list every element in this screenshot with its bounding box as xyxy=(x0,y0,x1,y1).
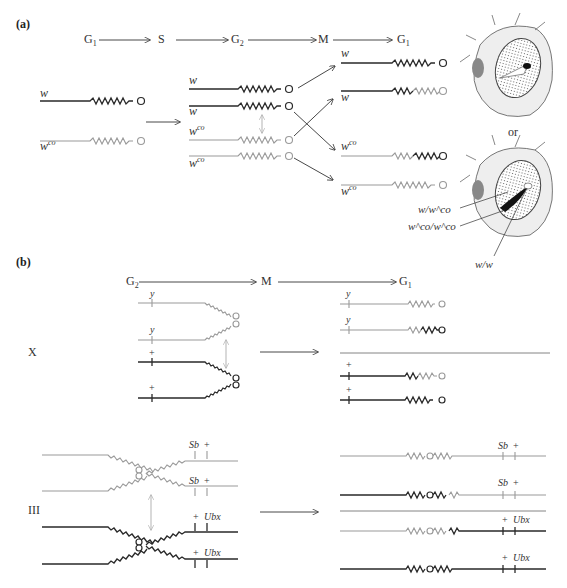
centromere xyxy=(286,103,293,110)
allele-wco: wco xyxy=(189,123,205,138)
marker-plus: + xyxy=(502,514,508,525)
g2-chromatids: w w wco wco xyxy=(189,73,293,170)
marker-plus: + xyxy=(193,511,199,522)
x-chromosome-g1: y y + + xyxy=(340,288,550,404)
marker-ubx: Ubx xyxy=(513,514,530,525)
allele-wco: wco xyxy=(189,155,205,170)
chromatid xyxy=(146,532,238,545)
allele-wco: wco xyxy=(40,138,56,153)
marker-plus: + xyxy=(204,475,210,486)
centromere xyxy=(439,301,445,307)
stage-m: M xyxy=(318,32,329,46)
marker-plus: + xyxy=(346,384,352,395)
marker-plus: + xyxy=(513,477,519,488)
allele-w: w xyxy=(189,73,197,87)
arrow xyxy=(294,158,333,180)
marker-sb: Sb xyxy=(498,440,508,451)
centromere xyxy=(136,467,142,473)
x-chromosome-label: X xyxy=(28,345,37,359)
chromosome-iii-g2: III Sb + Sb + + Ubx xyxy=(28,439,238,568)
allele-w: w xyxy=(341,46,349,60)
marker-y: y xyxy=(345,314,351,325)
chromosome xyxy=(340,327,421,333)
white-twin-spot xyxy=(524,183,532,189)
chromosome xyxy=(341,153,413,159)
centromere xyxy=(440,153,447,160)
cell-cycle-header-b: G2 M G1 xyxy=(126,274,412,290)
marker-ubx: Ubx xyxy=(204,547,221,558)
arrow xyxy=(294,112,335,150)
centromere xyxy=(427,528,433,534)
arrow xyxy=(298,66,335,88)
centromere xyxy=(439,373,445,379)
mitotic-recombination-figure: (a) G1 S G2 M G1 w wco w xyxy=(0,0,567,588)
stage-g1-end: G1 xyxy=(397,32,410,48)
marker-y: y xyxy=(149,288,155,299)
stage-g2: G2 xyxy=(231,32,244,48)
centromere xyxy=(136,473,142,479)
antenna xyxy=(472,180,484,200)
marker-plus: + xyxy=(502,552,508,563)
panel-b: (b) G2 M G1 X y y + + xyxy=(16,255,550,573)
panel-a: (a) G1 S G2 M G1 w wco w xyxy=(16,13,552,270)
stage-g2: G2 xyxy=(126,274,139,290)
marker-ubx: Ubx xyxy=(513,552,530,563)
centromere xyxy=(440,88,447,95)
marker-plus: + xyxy=(149,347,155,358)
centromere xyxy=(233,375,239,381)
panel-a-label: (a) xyxy=(16,17,30,31)
centromere xyxy=(440,60,447,67)
chromosome-iii-label: III xyxy=(28,503,40,517)
marker-y: y xyxy=(149,324,155,335)
centromere xyxy=(427,453,433,459)
chromatid xyxy=(189,86,281,92)
stage-g1-start: G1 xyxy=(84,32,97,48)
centromere xyxy=(233,382,239,388)
centromere xyxy=(439,397,445,403)
chromatid xyxy=(146,461,238,474)
segregation-arrows xyxy=(294,66,335,180)
chromatid xyxy=(189,103,281,109)
or-separator: or xyxy=(508,125,518,139)
cell-cycle-header-a: G1 S G2 M G1 xyxy=(84,32,410,48)
marker-plus: + xyxy=(513,440,519,451)
eye-label-w-w: w/w xyxy=(475,258,493,270)
chromosome-recombinant-segment xyxy=(449,492,546,498)
x-chromosome-g2: X y y + + xyxy=(28,288,239,402)
antenna xyxy=(472,58,484,78)
marker-sb: Sb xyxy=(498,477,508,488)
centromere xyxy=(233,321,239,327)
stage-s: S xyxy=(158,32,165,46)
centromere xyxy=(440,182,447,189)
centromere xyxy=(286,86,293,93)
daughter-chromosomes-a: w w wco wco xyxy=(341,46,447,198)
dark-clone-spot xyxy=(523,63,531,69)
centromere xyxy=(286,153,293,160)
marker-sb: Sb xyxy=(189,439,199,450)
chromatid xyxy=(42,476,147,491)
allele-wco: wco xyxy=(341,138,357,153)
marker-sb: Sb xyxy=(189,475,199,486)
stage-m: M xyxy=(261,274,272,288)
marker-plus: + xyxy=(346,359,352,370)
centromere xyxy=(286,137,293,144)
marker-plus: + xyxy=(149,382,155,393)
centromere xyxy=(427,492,433,498)
stage-g1: G1 xyxy=(399,274,412,290)
centromere xyxy=(138,98,145,105)
chromatid xyxy=(42,549,147,564)
chromosome xyxy=(341,88,413,94)
chromosome-recombinant-segment xyxy=(449,528,546,534)
chromatid xyxy=(146,546,238,559)
chromosome-iii-g1: Sb + Sb + + Ubx + Ubx xyxy=(340,440,546,573)
chromosome-w xyxy=(40,98,133,104)
marker-y: y xyxy=(345,288,351,299)
chromosome xyxy=(341,60,435,66)
marker-ubx: Ubx xyxy=(204,511,221,522)
panel-b-label: (b) xyxy=(16,255,31,269)
centromere xyxy=(233,313,239,319)
chromosome-recombinant-segment xyxy=(418,373,437,379)
eye-label-w-wco: w/w^co xyxy=(418,203,451,215)
allele-w: w xyxy=(341,90,349,104)
g1-chromosomes: w wco xyxy=(40,86,145,153)
